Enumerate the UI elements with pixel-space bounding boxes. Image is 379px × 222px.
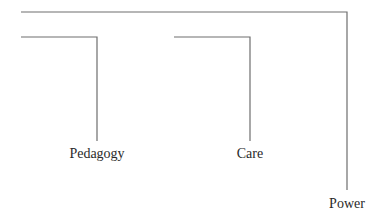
pedagogy-bracket-line xyxy=(21,37,97,141)
care-label: Care xyxy=(237,146,263,161)
pedagogy-label: Pedagogy xyxy=(69,146,124,161)
care-bracket: Care xyxy=(174,37,263,161)
power-bracket: Power xyxy=(21,12,365,211)
care-bracket-line xyxy=(174,37,250,141)
bracket-diagram: Power Pedagogy Care xyxy=(0,0,379,222)
pedagogy-bracket: Pedagogy xyxy=(21,37,125,161)
power-label: Power xyxy=(329,196,365,211)
power-bracket-line xyxy=(21,12,347,190)
